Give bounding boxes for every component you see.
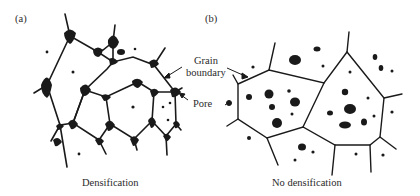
pore-label: Pore	[193, 98, 212, 110]
panel-b-caption: No densification	[272, 177, 342, 189]
panel-b-label: (b)	[205, 13, 217, 25]
panel-a-caption: Densification	[82, 177, 139, 189]
grain-boundary-label-line2: boundary	[186, 67, 226, 79]
panel-a-label: (a)	[15, 13, 27, 25]
panel-b-grain-network	[227, 32, 402, 175]
grain-boundary-label-line1: Grain	[194, 55, 218, 67]
